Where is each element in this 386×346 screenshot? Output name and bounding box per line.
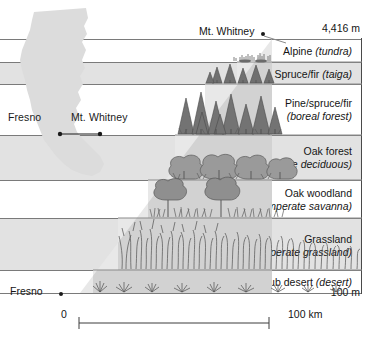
band-biome-oak-woodland: (temperate savanna): [255, 200, 352, 213]
band-name-pine-spruce-fir: Pine/spruce/fir: [285, 97, 352, 110]
map-fresno-whitney-connector: [57, 124, 103, 132]
band-biome-oak-forest: (temperate deciduous): [247, 158, 352, 171]
profile-dot-fresno: [59, 292, 63, 296]
band-shrub-desert: Shrub desert (desert): [0, 270, 362, 293]
map-label-whitney: Mt. Whitney: [71, 111, 128, 123]
band-label-oak-woodland: Oak woodland (temperate savanna): [255, 187, 352, 212]
band-label-oak-forest: Oak forest (temperate deciduous): [247, 145, 352, 170]
scale-label-zero: 0: [61, 308, 67, 320]
band-name-alpine: Alpine: [283, 45, 312, 57]
california-inset-map: [8, 4, 138, 204]
band-label-grassland: Grassland (temperate grassland): [249, 233, 352, 258]
band-label-spruce-fir: Spruce/fir (taiga): [274, 68, 352, 81]
peak-elevation-label: 4,416 m: [322, 22, 360, 34]
distance-scale-bar: [77, 315, 307, 331]
california-outline: [20, 8, 104, 176]
band-biome-pine-spruce-fir: (boreal forest): [285, 110, 352, 123]
band-name-spruce-fir: Spruce/fir: [274, 68, 319, 80]
map-label-fresno: Fresno: [8, 111, 41, 123]
band-biome-spruce-fir: (taiga): [322, 68, 352, 80]
profile-label-fresno: Fresno: [10, 285, 43, 297]
band-label-pine-spruce-fir: Pine/spruce/fir (boreal forest): [285, 97, 352, 122]
biome-elevation-figure: Alpine (tundra) Spruce/fir (taiga) Pine/…: [0, 0, 386, 346]
band-name-oak-forest: Oak forest: [247, 145, 352, 158]
band-label-alpine: Alpine (tundra): [283, 45, 352, 58]
band-name-grassland: Grassland: [249, 233, 352, 246]
elevation-axis-line: [361, 38, 362, 294]
profile-leader-whitney: [264, 32, 286, 44]
band-name-oak-woodland: Oak woodland: [255, 187, 352, 200]
band-biome-alpine: (tundra): [315, 45, 352, 57]
profile-label-whitney: Mt. Whitney: [199, 25, 254, 37]
scale-label-max: 100 km: [288, 308, 322, 320]
band-stack-baseline: [0, 293, 362, 294]
band-name-shrub-desert: Shrub desert: [253, 276, 313, 288]
band-biome-grassland: (temperate grassland): [249, 246, 352, 259]
base-elevation-label: 100 m: [331, 286, 360, 298]
band-grassland: Grassland (temperate grassland): [0, 218, 362, 270]
